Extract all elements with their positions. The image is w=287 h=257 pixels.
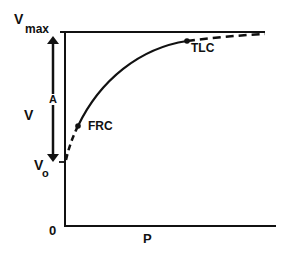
origin-label: 0 [49,224,56,237]
frc-point [75,123,81,129]
vmax-subscript: max [25,23,49,35]
frc-label: FRC [88,120,113,132]
vmax-main: V [14,11,23,27]
diagram-graphics [0,0,287,257]
x-axis-label: P [143,232,152,245]
curve-upper-dashed [187,34,265,41]
y-axis-label: V [24,108,33,122]
curve-solid [78,41,187,126]
tlc-point [184,38,190,44]
v0-subscript: o [42,168,49,179]
curve-lower-dashed [66,126,78,160]
pressure-volume-diagram: V max V A V o 0 P FRC TLC [0,0,287,257]
vmax-label: V [14,12,23,26]
arrow-label: A [48,94,58,105]
tlc-label: TLC [191,42,214,54]
